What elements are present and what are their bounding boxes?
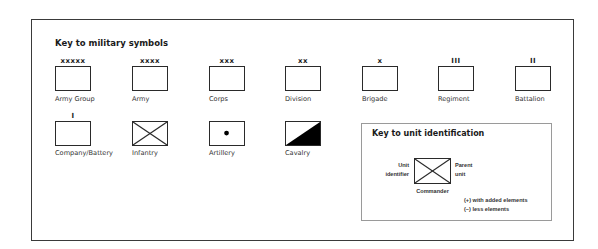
unit-identifier-label: Unit identifier <box>370 161 409 178</box>
army-group-symbol <box>55 66 91 91</box>
brigade-symbol <box>362 66 398 91</box>
battalion-label: Battalion <box>515 95 545 103</box>
cavalry-label: Cavalry <box>285 149 310 157</box>
artillery-label: Artillery <box>209 149 235 157</box>
echelon-marker-division: xx <box>285 58 321 65</box>
division-symbol <box>285 66 321 91</box>
unit-identification-key-title: Key to unit identification <box>372 129 484 138</box>
commander-label: Commander <box>414 187 451 196</box>
company-battery-label: Company/Battery <box>55 149 113 157</box>
regiment-label: Regiment <box>438 95 470 103</box>
corps-label: Corps <box>209 95 228 103</box>
cavalry-icon <box>285 121 321 146</box>
unit-identifier-line1: Unit <box>370 161 409 170</box>
army-group-label: Army Group <box>55 95 95 103</box>
infantry-label: Infantry <box>132 149 158 157</box>
regiment-symbol <box>438 66 474 91</box>
echelon-marker-corps: xxx <box>209 58 245 65</box>
brigade-label: Brigade <box>362 95 388 103</box>
echelon-marker-army: xxxx <box>132 58 168 65</box>
infantry-icon <box>132 121 168 146</box>
army-symbol <box>132 66 168 91</box>
corps-symbol <box>209 66 245 91</box>
note-less-elements: (–) less elements <box>464 205 509 214</box>
parent-unit-label: Parent unit <box>455 161 472 178</box>
echelon-marker-army-group: xxxxx <box>55 58 91 65</box>
artillery-icon <box>209 121 245 146</box>
company-battery-symbol <box>55 121 91 146</box>
echelon-marker-battalion: II <box>515 58 551 65</box>
army-label: Army <box>132 95 149 103</box>
note-added-elements: (+) with added elements <box>464 196 528 205</box>
echelon-marker-company: I <box>55 113 91 120</box>
battalion-symbol <box>515 66 551 91</box>
key-infantry-icon <box>414 158 451 184</box>
echelon-marker-brigade: x <box>362 58 398 65</box>
echelon-marker-regiment: III <box>438 58 474 65</box>
parent-unit-line2: unit <box>455 170 472 179</box>
unit-identifier-line2: identifier <box>370 170 409 179</box>
parent-unit-line1: Parent <box>455 161 472 170</box>
diagram-title: Key to military symbols <box>55 38 168 48</box>
division-label: Division <box>285 95 311 103</box>
